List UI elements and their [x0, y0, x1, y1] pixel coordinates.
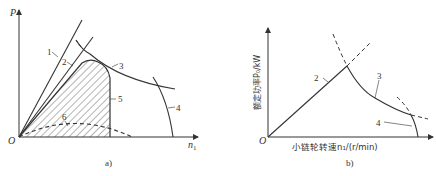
curve-label-4: 4	[376, 118, 381, 128]
x-axis-label: n1	[188, 139, 197, 152]
curve-label-3: 3	[377, 71, 382, 81]
diagram-canvas: P O n1 1 2 3 4 5 6 a) 2 3 4 O 额定功率P₀/kW …	[0, 0, 436, 176]
y-axis-label: P	[9, 7, 16, 18]
curve-4	[411, 115, 418, 137]
curve-label-1: 1	[47, 47, 52, 57]
curve-label-4: 4	[176, 103, 181, 113]
origin-label: O	[259, 135, 266, 146]
y-axis-label: 额定功率P₀/kW	[252, 55, 262, 110]
figure-b: 2 3 4 O 额定功率P₀/kW 小链轮转速n₁/(r/min) b)	[252, 28, 433, 168]
caption-b: b)	[346, 158, 354, 168]
curve-label-5: 5	[118, 94, 123, 104]
origin-label: O	[8, 135, 15, 146]
caption-a: a)	[105, 158, 112, 168]
curve-label-3: 3	[119, 61, 124, 71]
curve-label-2: 2	[314, 73, 319, 83]
curve-label-6: 6	[62, 112, 67, 122]
curve-label-2: 2	[62, 57, 67, 67]
x-axis-label: 小链轮转速n₁/(r/min)	[292, 142, 378, 152]
curve-4	[153, 77, 173, 137]
curve-2	[268, 66, 347, 137]
figure-a: P O n1 1 2 3 4 5 6 a)	[8, 7, 198, 168]
